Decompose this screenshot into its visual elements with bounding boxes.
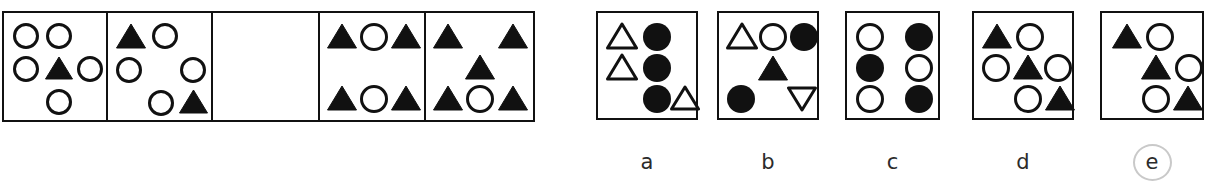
filled-triangle-up-icon: [1140, 53, 1172, 81]
filled-circle-icon: [905, 85, 933, 113]
option-a-box[interactable]: [596, 11, 698, 120]
filled-triangle-up-icon: [757, 54, 789, 82]
option-d-label[interactable]: d: [1003, 148, 1043, 176]
filled-triangle-up-icon: [178, 88, 209, 115]
outline-circle-icon: [1175, 54, 1203, 82]
filled-circle-icon: [905, 23, 933, 51]
filled-triangle-up-icon: [390, 22, 422, 50]
outline-circle-icon: [905, 54, 933, 82]
filled-triangle-up-icon: [464, 53, 496, 81]
outline-circle-icon: [1044, 54, 1072, 82]
filled-triangle-up-icon: [390, 84, 422, 112]
outline-circle-icon: [180, 57, 206, 83]
filled-triangle-up-icon: [326, 22, 358, 50]
outline-triangle-up-icon: [606, 53, 638, 81]
outline-circle-icon: [116, 57, 142, 83]
outline-circle-icon: [360, 23, 388, 51]
filled-triangle-up-icon: [44, 55, 74, 81]
outline-circle-icon: [77, 56, 103, 82]
filled-triangle-up-icon: [497, 84, 529, 112]
outline-circle-icon: [466, 85, 494, 113]
outline-circle-icon: [46, 89, 72, 115]
filled-triangle-up-icon: [1172, 84, 1204, 112]
outline-circle-icon: [13, 56, 39, 82]
outline-triangle-up-icon: [670, 85, 700, 111]
option-d-box[interactable]: [972, 11, 1074, 120]
filled-circle-icon: [643, 23, 671, 51]
sequence-cell-2: [108, 13, 213, 120]
option-a-label[interactable]: a: [627, 148, 667, 176]
outline-circle-icon: [982, 54, 1010, 82]
outline-circle-icon: [148, 90, 174, 116]
sequence-cell-3-missing[interactable]: [213, 13, 320, 120]
outline-circle-icon: [759, 23, 787, 51]
option-e-label[interactable]: e: [1132, 148, 1172, 176]
filled-triangle-up-icon: [1044, 84, 1076, 112]
filled-triangle-up-icon: [1012, 53, 1044, 81]
outline-circle-icon: [13, 23, 39, 49]
filled-circle-icon: [790, 23, 818, 51]
option-b-label[interactable]: b: [748, 148, 788, 176]
outline-circle-icon: [152, 23, 178, 49]
outline-circle-icon: [46, 23, 72, 49]
outline-circle-icon: [1014, 85, 1042, 113]
answer-options-row: abcde: [594, 11, 1208, 123]
outline-triangle-down-icon: [787, 86, 817, 112]
filled-circle-icon: [643, 54, 671, 82]
sequence-cell-4: [320, 13, 426, 120]
outline-circle-icon: [1146, 23, 1174, 51]
outline-circle-icon: [856, 23, 884, 51]
filled-triangle-up-icon: [981, 22, 1013, 50]
sequence-cell-5: [426, 13, 535, 120]
sequence-cell-1: [4, 13, 108, 120]
filled-circle-icon: [727, 85, 755, 113]
filled-triangle-up-icon: [1111, 22, 1143, 50]
filled-triangle-up-icon: [115, 22, 147, 50]
outline-circle-icon: [856, 85, 884, 113]
option-c-label[interactable]: c: [873, 148, 913, 176]
filled-triangle-up-icon: [432, 84, 464, 112]
filled-triangle-up-icon: [497, 22, 529, 50]
option-b-box[interactable]: [717, 11, 819, 120]
outline-circle-icon: [1016, 23, 1044, 51]
option-c-box[interactable]: [845, 11, 940, 120]
outline-circle-icon: [1142, 85, 1170, 113]
filled-circle-icon: [856, 54, 884, 82]
filled-triangle-up-icon: [326, 84, 358, 112]
sequence-strip: [2, 11, 535, 122]
outline-circle-icon: [360, 85, 388, 113]
filled-circle-icon: [643, 85, 671, 113]
filled-triangle-up-icon: [432, 22, 464, 50]
outline-triangle-up-icon: [726, 22, 758, 50]
outline-triangle-up-icon: [606, 22, 638, 50]
option-e-box[interactable]: [1100, 11, 1204, 120]
